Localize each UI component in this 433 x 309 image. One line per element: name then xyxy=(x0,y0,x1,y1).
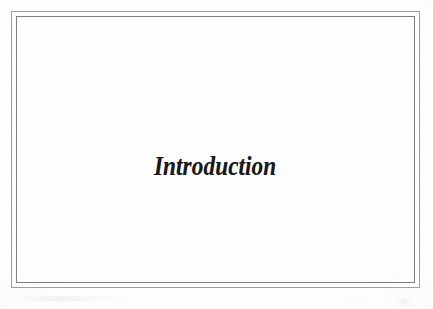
scanned-page: Introduction xyxy=(0,0,433,309)
chapter-title: Introduction xyxy=(154,153,276,180)
chapter-title-area: Introduction xyxy=(16,16,415,283)
scan-artifact-bottom-left xyxy=(16,296,136,301)
scan-artifact-bottom-right xyxy=(392,298,418,306)
